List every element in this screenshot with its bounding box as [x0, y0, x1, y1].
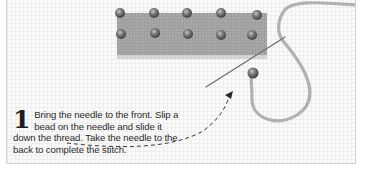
instruction-panel: 1 Bring the needle to the front. Slip a … — [6, 0, 356, 164]
bead-on-needle — [248, 68, 259, 79]
step-caption: 1 Bring the needle to the front. Slip a … — [13, 109, 183, 155]
arrowhead-icon — [225, 91, 233, 99]
step-text: Bring the needle to the front. Slip a be… — [13, 109, 178, 155]
step-number: 1 — [13, 110, 30, 132]
